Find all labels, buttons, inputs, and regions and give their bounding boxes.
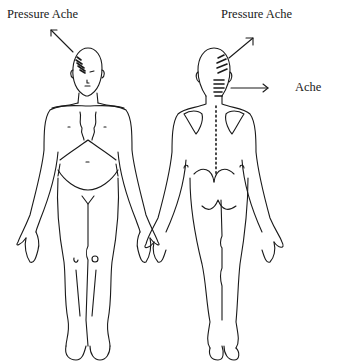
front-figure (17, 30, 159, 360)
front-pressure-arrow (51, 30, 73, 52)
back-ache-arrow (231, 84, 268, 92)
body-diagram (0, 0, 339, 364)
back-figure (145, 38, 283, 360)
back-pressure-arrow (229, 38, 253, 58)
front-head (73, 48, 102, 96)
back-head (198, 48, 230, 96)
front-pain-hatching (76, 57, 85, 73)
